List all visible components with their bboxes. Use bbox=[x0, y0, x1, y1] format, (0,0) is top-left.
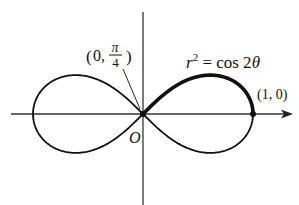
origin-label: O bbox=[129, 129, 141, 146]
paren-open: ( bbox=[86, 47, 92, 66]
point-one-zero bbox=[250, 111, 256, 117]
lemniscate-highlighted-arc bbox=[143, 75, 253, 114]
label-zero-comma: 0, bbox=[93, 47, 105, 64]
label-pi: π bbox=[111, 40, 119, 55]
origin-point bbox=[140, 111, 146, 117]
point-one-zero-label: (1, 0) bbox=[257, 87, 288, 103]
label-origin-polar: ( 0, π 4 ) bbox=[86, 40, 132, 70]
paren-close: ) bbox=[126, 47, 132, 66]
lemniscate-diagram: ( 0, π 4 ) r2 = cos 2θ (1, 0) O bbox=[0, 0, 299, 205]
equation-label: r2 = cos 2θ bbox=[186, 51, 260, 72]
label-four: 4 bbox=[112, 55, 119, 70]
